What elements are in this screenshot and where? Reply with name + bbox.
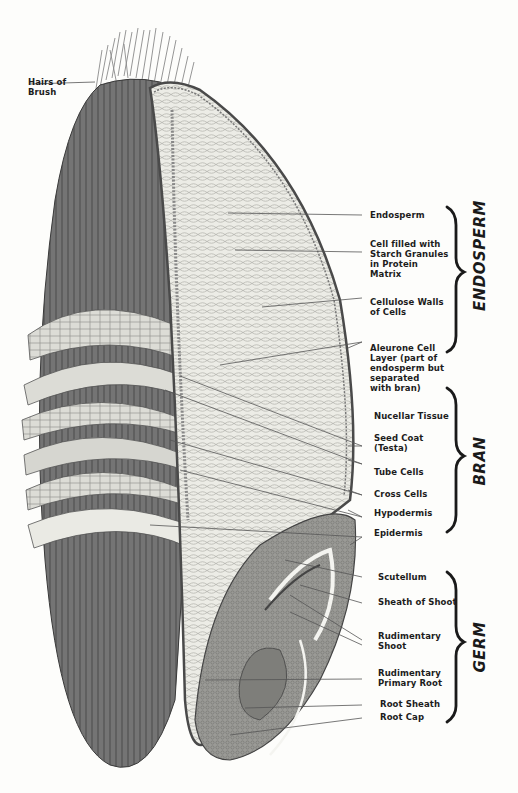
group-label-bran: BRAN: [471, 421, 489, 501]
group-label-endosperm: ENDOSPERM: [471, 231, 489, 311]
label-root-cap: Root Cap: [380, 712, 424, 722]
label-cross-cells: Cross Cells: [374, 489, 427, 499]
label-rudimentary-primary-root: Rudimentary Primary Root: [378, 668, 442, 688]
label-seed-coat: Seed Coat (Testa): [374, 433, 423, 453]
label-nucellar-tissue: Nucellar Tissue: [374, 411, 449, 421]
label-starch-cell: Cell filled with Starch Granules in Prot…: [370, 239, 448, 279]
label-hypodermis: Hypodermis: [374, 508, 432, 518]
label-cellulose-walls: Cellulose Walls of Cells: [370, 297, 444, 317]
label-sheath-of-shoot: Sheath of Shoot: [378, 597, 457, 607]
label-tube-cells: Tube Cells: [374, 467, 424, 477]
label-epidermis: Epidermis: [374, 528, 423, 538]
label-root-sheath: Root Sheath: [380, 699, 440, 709]
label-rudimentary-shoot: Rudimentary Shoot: [378, 631, 441, 651]
group-braces: [447, 207, 464, 722]
group-label-germ: GERM: [471, 607, 489, 687]
label-endosperm: Endosperm: [370, 210, 425, 220]
label-hairs-of-brush: Hairs of Brush: [28, 77, 66, 97]
label-aleurone: Aleurone Cell Layer (part of endosperm b…: [370, 343, 444, 393]
label-scutellum: Scutellum: [378, 572, 427, 582]
